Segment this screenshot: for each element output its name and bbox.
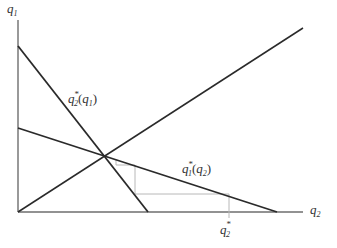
best-response-q1-label: q*1(q2) <box>182 159 211 178</box>
best-response-q2-line <box>18 46 148 212</box>
equilibrium-q2-label: q*2 <box>220 219 232 239</box>
y-axis-label: q1 <box>7 1 18 18</box>
best-response-q2-label: q*2(q1) <box>68 89 97 108</box>
best-response-diagram: q1 q2 q*2(q1) q*1(q2) q*2 <box>0 0 337 248</box>
best-response-q1-line <box>18 128 277 212</box>
symmetry-ray-line <box>18 28 303 212</box>
x-axis-label: q2 <box>310 202 321 219</box>
convergence-path <box>116 160 229 218</box>
